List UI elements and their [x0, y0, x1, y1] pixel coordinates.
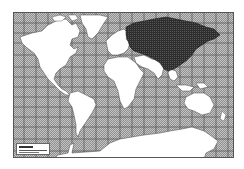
- legend-label: [17, 144, 18, 145]
- map-legend: [16, 143, 50, 155]
- legend-swatch: [19, 146, 33, 148]
- legend-line: [19, 150, 47, 151]
- map-canvas: [14, 13, 234, 158]
- legend-line: [19, 152, 39, 153]
- world-map: [13, 12, 234, 158]
